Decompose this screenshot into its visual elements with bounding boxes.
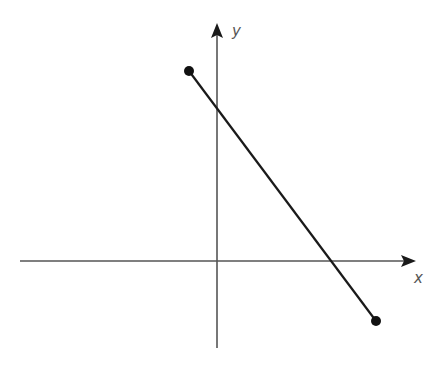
y-axis-label: y: [231, 22, 242, 40]
coordinate-plane: y x: [0, 0, 432, 368]
x-axis-label: x: [413, 269, 423, 287]
segment-end-point: [371, 316, 381, 326]
y-axis: [211, 23, 223, 348]
line-segment: [184, 66, 381, 326]
segment-start-point: [184, 66, 194, 76]
x-axis: [20, 255, 416, 267]
